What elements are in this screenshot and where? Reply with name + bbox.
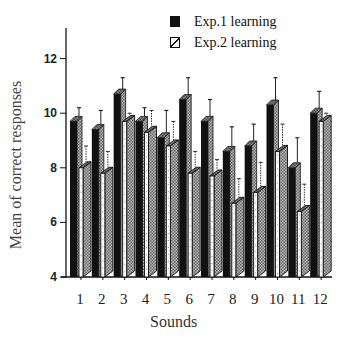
- bar-exp2-side: [170, 140, 178, 277]
- bar-exp1: [288, 168, 295, 277]
- bar-exp2-side: [83, 162, 91, 277]
- bar-group: [310, 91, 331, 277]
- legend-item-exp1: Exp.1 learning: [170, 11, 276, 32]
- bar-exp1: [70, 121, 77, 277]
- bar-exp2: [101, 173, 105, 277]
- bar-exp2: [319, 121, 323, 277]
- solid-swatch-icon: [170, 16, 180, 27]
- bar-group: [136, 108, 157, 277]
- bar-exp1: [201, 121, 208, 277]
- x-tick-label: 10: [269, 291, 284, 307]
- bar-exp2-side: [280, 145, 288, 277]
- y-tick-label: 10: [44, 106, 58, 120]
- bar-exp2-side: [214, 170, 222, 277]
- bar-exp1: [114, 94, 121, 277]
- x-tick-label: 12: [313, 291, 328, 307]
- x-tick-label: 5: [164, 291, 172, 307]
- x-tick-label: 4: [142, 291, 150, 307]
- bar-exp2-side: [258, 186, 266, 277]
- bar-exp2-side: [301, 205, 309, 277]
- bar-group: [179, 78, 200, 277]
- bar-exp2: [166, 146, 170, 277]
- bar-group: [157, 110, 178, 277]
- bar-exp2-side: [127, 115, 135, 277]
- bar-exp2-side: [105, 167, 113, 277]
- bar-exp1: [92, 130, 99, 277]
- y-tick-label: 6: [50, 215, 57, 229]
- y-tick-label: 12: [44, 52, 58, 66]
- bar-exp2: [123, 121, 127, 277]
- x-tick-label: 9: [251, 291, 259, 307]
- y-axis-label: Mean of correct responses: [2, 55, 30, 275]
- bar-exp1: [267, 105, 274, 277]
- bar-group: [201, 100, 222, 277]
- bar-group: [288, 138, 309, 277]
- y-tick-label: 4: [50, 270, 57, 284]
- bar-exp2: [210, 176, 214, 277]
- bar-exp1: [136, 121, 143, 277]
- x-tick-label: 1: [76, 291, 84, 307]
- x-tick-label: 2: [98, 291, 106, 307]
- bar-group: [267, 78, 288, 277]
- bar-exp2-side: [236, 197, 244, 277]
- x-axis-label: Sounds: [150, 313, 197, 331]
- y-tick-label: 8: [50, 161, 57, 175]
- legend: Exp.1 learning Exp.2 learning: [170, 11, 276, 53]
- bar-exp2: [232, 203, 236, 277]
- hatched-swatch-icon: [170, 37, 180, 48]
- bars-group: [70, 78, 331, 277]
- bar-group: [223, 127, 244, 277]
- legend-label: Exp.2 learning: [194, 35, 276, 51]
- x-tick-label: 7: [207, 291, 215, 307]
- legend-item-exp2: Exp.2 learning: [170, 32, 276, 53]
- bar-exp2: [276, 151, 280, 277]
- bar-group: [92, 110, 113, 277]
- bar-exp1: [223, 151, 230, 277]
- bar-exp2: [188, 173, 192, 277]
- bar-exp1: [157, 138, 164, 277]
- bar-exp1: [310, 113, 317, 277]
- x-tick-label: 11: [291, 291, 305, 307]
- bar-exp2-side: [192, 167, 200, 277]
- bar-group: [70, 108, 91, 277]
- bar-group: [245, 124, 266, 277]
- x-tick-label: 6: [185, 291, 193, 307]
- bar-exp2: [297, 211, 301, 277]
- x-tick-label: 3: [120, 291, 128, 307]
- bar-exp2: [254, 192, 258, 277]
- bar-exp1: [179, 100, 186, 277]
- bar-exp2-side: [149, 126, 157, 277]
- bar-exp1: [245, 146, 252, 277]
- legend-label: Exp.1 learning: [194, 14, 276, 30]
- bar-exp2: [79, 168, 83, 277]
- bar-exp2-side: [323, 115, 331, 277]
- bar-group: [114, 78, 135, 277]
- x-tick-label: 8: [229, 291, 237, 307]
